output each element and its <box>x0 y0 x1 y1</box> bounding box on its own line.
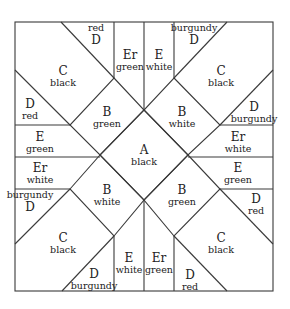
piece-letter: D <box>182 269 198 281</box>
piece-color: black <box>50 78 76 88</box>
piece-color: red <box>182 282 198 292</box>
piece-label-Er-top: Ergreen <box>116 49 144 72</box>
piece-label-B-bottom-left: Bwhite <box>94 184 121 207</box>
piece-letter: E <box>224 162 252 174</box>
piece-color: red <box>88 23 104 33</box>
piece-label-E-right: Egreen <box>224 162 252 185</box>
piece-color: green <box>26 144 54 154</box>
piece-color: white <box>169 119 196 129</box>
piece-color: white <box>146 62 173 72</box>
piece-letter: D <box>88 33 104 45</box>
piece-letter: E <box>26 131 54 143</box>
piece-color: white <box>94 197 121 207</box>
piece-label-D-top-left-top: redD <box>88 23 104 46</box>
piece-label-D-bottom-right-side: Dred <box>248 193 264 216</box>
piece-label-A-center: Ablack <box>131 144 157 167</box>
piece-letter: E <box>146 49 173 61</box>
piece-letter: B <box>169 106 196 118</box>
piece-label-B-bottom-right: Bgreen <box>168 184 196 207</box>
piece-letter: D <box>248 193 264 205</box>
piece-letter: Er <box>27 162 54 174</box>
piece-label-C-top-left: Cblack <box>50 65 76 88</box>
piece-label-Er-left: Erwhite <box>27 162 54 185</box>
piece-letter: E <box>116 252 143 264</box>
piece-letter: D <box>231 101 278 113</box>
piece-letter: B <box>168 184 196 196</box>
piece-label-Er-bottom: Ergreen <box>145 252 173 275</box>
piece-label-D-top-right-side: Dburgundy <box>231 101 278 124</box>
piece-label-E-left: Egreen <box>26 131 54 154</box>
piece-label-D-bottom-left-bottom: Dburgundy <box>71 268 118 291</box>
piece-color: black <box>208 245 234 255</box>
piece-label-D-bottom-right-bottom: Dred <box>182 269 198 292</box>
piece-color: black <box>50 245 76 255</box>
piece-color: green <box>116 62 144 72</box>
piece-letter: C <box>50 232 76 244</box>
piece-letter: Er <box>145 252 173 264</box>
piece-letter: Er <box>225 131 252 143</box>
piece-label-C-bottom-left: Cblack <box>50 232 76 255</box>
piece-color: white <box>27 175 54 185</box>
piece-color: burgundy <box>171 23 218 33</box>
piece-letter: D <box>22 98 38 110</box>
piece-letter: D <box>71 268 118 280</box>
piece-label-Er-right: Erwhite <box>225 131 252 154</box>
piece-label-C-top-right: Cblack <box>208 65 234 88</box>
piece-letter: C <box>208 65 234 77</box>
piece-color: red <box>248 206 264 216</box>
piece-letter: C <box>208 232 234 244</box>
piece-letter: Er <box>116 49 144 61</box>
piece-color: green <box>93 119 121 129</box>
piece-label-D-top-right-top: burgundyD <box>171 23 218 46</box>
piece-letter: B <box>94 184 121 196</box>
piece-label-D-top-left-side: Dred <box>22 98 38 121</box>
piece-color: green <box>145 265 173 275</box>
piece-label-B-top-left: Bgreen <box>93 106 121 129</box>
piece-label-B-top-right: Bwhite <box>169 106 196 129</box>
piece-color: black <box>131 157 157 167</box>
piece-color: burgundy <box>71 281 118 291</box>
piece-letter: D <box>171 33 218 45</box>
piece-label-E-bottom: Ewhite <box>116 252 143 275</box>
piece-label-C-bottom-right: Cblack <box>208 232 234 255</box>
piece-letter: B <box>93 106 121 118</box>
piece-label-E-top: Ewhite <box>146 49 173 72</box>
piece-color: black <box>208 78 234 88</box>
piece-color: burgundy <box>7 190 54 200</box>
piece-color: burgundy <box>231 114 278 124</box>
piece-color: white <box>116 265 143 275</box>
piece-letter: D <box>7 200 54 212</box>
piece-letter: C <box>50 65 76 77</box>
piece-color: green <box>168 197 196 207</box>
piece-color: white <box>225 144 252 154</box>
piece-letter: A <box>131 144 157 156</box>
piece-color: green <box>224 175 252 185</box>
piece-color: red <box>22 111 38 121</box>
piece-label-D-bottom-left-side: burgundyD <box>7 190 54 213</box>
